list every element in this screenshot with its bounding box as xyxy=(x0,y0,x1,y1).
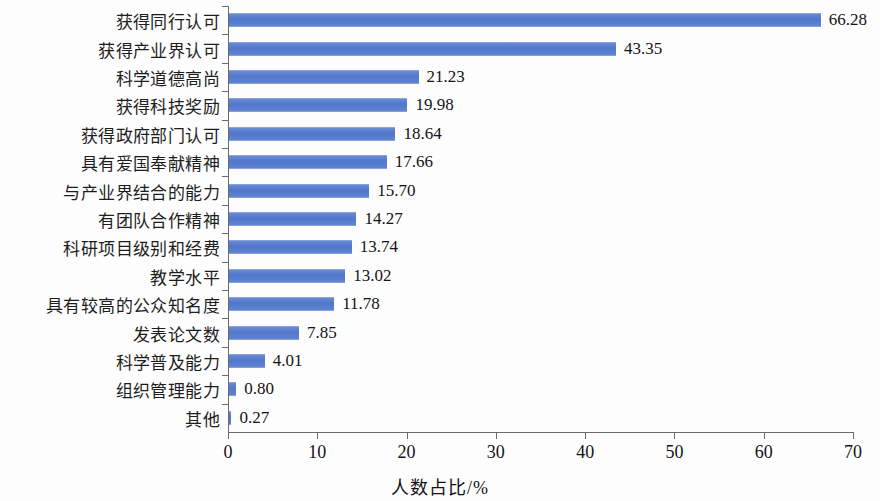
category-label: 科学普及能力 xyxy=(116,348,220,373)
x-axis-tick xyxy=(853,433,854,439)
bar-row: 具有爱国奉献精神17.66 xyxy=(228,148,853,176)
bar-value-label: 19.98 xyxy=(415,95,453,115)
y-axis-tick xyxy=(222,347,228,348)
category-label: 获得政府部门认可 xyxy=(81,121,220,146)
x-axis-tick xyxy=(496,433,497,439)
bar-value-label: 18.64 xyxy=(403,124,441,144)
y-axis-tick xyxy=(222,120,228,121)
bar xyxy=(229,42,616,55)
x-axis-tick-label: 50 xyxy=(665,442,683,463)
bar xyxy=(229,241,352,254)
category-label: 获得同行认可 xyxy=(116,8,220,33)
bar-row: 其他0.27 xyxy=(228,404,853,432)
x-axis-tick-label: 20 xyxy=(398,442,416,463)
category-label: 获得产业界认可 xyxy=(98,36,220,61)
category-label: 具有较高的公众知名度 xyxy=(46,292,220,317)
category-label: 与产业界结合的能力 xyxy=(63,178,220,203)
bar xyxy=(229,411,231,424)
bar xyxy=(229,99,407,112)
bar xyxy=(229,298,334,311)
bar-value-label: 0.80 xyxy=(244,379,274,399)
bar xyxy=(229,269,345,282)
category-label: 有团队合作精神 xyxy=(98,206,220,231)
bar-value-label: 43.35 xyxy=(624,39,662,59)
bar xyxy=(229,354,265,367)
bar-value-label: 21.23 xyxy=(427,67,465,87)
y-axis-tick xyxy=(222,233,228,234)
x-axis-tick xyxy=(228,433,229,439)
bar-value-label: 14.27 xyxy=(364,209,402,229)
y-axis-tick xyxy=(222,91,228,92)
y-axis-tick xyxy=(222,404,228,405)
bar-value-label: 15.70 xyxy=(377,181,415,201)
category-label: 发表论文数 xyxy=(133,320,220,345)
x-axis-tick-label: 30 xyxy=(487,442,505,463)
x-axis-tick-label: 40 xyxy=(576,442,594,463)
bar xyxy=(229,326,299,339)
bar-row: 获得产业界认可43.35 xyxy=(228,34,853,62)
y-axis-tick xyxy=(222,63,228,64)
category-label: 科研项目级别和经费 xyxy=(63,235,220,260)
x-axis-line xyxy=(228,432,854,433)
bar-row: 组织管理能力0.80 xyxy=(228,375,853,403)
bar-row: 获得同行认可66.28 xyxy=(228,6,853,34)
bar-row: 获得政府部门认可18.64 xyxy=(228,120,853,148)
bar-value-label: 13.02 xyxy=(353,266,391,286)
bar-value-label: 13.74 xyxy=(360,237,398,257)
y-axis-tick xyxy=(222,375,228,376)
bar-row: 具有较高的公众知名度11.78 xyxy=(228,290,853,318)
x-axis-tick-label: 60 xyxy=(755,442,773,463)
category-label: 教学水平 xyxy=(150,263,220,288)
category-label: 组织管理能力 xyxy=(116,377,220,402)
bar-chart: 获得同行认可66.28获得产业界认可43.35科学道德高尚21.23获得科技奖励… xyxy=(0,0,880,501)
bar-row: 获得科技奖励19.98 xyxy=(228,91,853,119)
y-axis-tick xyxy=(222,262,228,263)
bar xyxy=(229,184,369,197)
bar xyxy=(229,212,356,225)
bar xyxy=(229,14,821,27)
bar xyxy=(229,383,236,396)
bar xyxy=(229,127,395,140)
bar-row: 科学道德高尚21.23 xyxy=(228,63,853,91)
bar-value-label: 11.78 xyxy=(342,294,380,314)
bar-row: 科研项目级别和经费13.74 xyxy=(228,233,853,261)
y-axis-tick xyxy=(222,148,228,149)
x-axis-tick xyxy=(585,433,586,439)
category-label: 获得科技奖励 xyxy=(116,93,220,118)
x-axis-tick-label: 10 xyxy=(308,442,326,463)
x-axis-title: 人数占比/% xyxy=(0,473,880,499)
category-label: 具有爱国奉献精神 xyxy=(81,150,220,175)
bar-row: 与产业界结合的能力15.70 xyxy=(228,176,853,204)
bar-row: 发表论文数7.85 xyxy=(228,318,853,346)
bar-value-label: 66.28 xyxy=(829,10,867,30)
bar-value-label: 7.85 xyxy=(307,323,337,343)
bar xyxy=(229,156,387,169)
y-axis-tick xyxy=(222,6,228,7)
x-axis-tick xyxy=(674,433,675,439)
bar-value-label: 17.66 xyxy=(395,152,433,172)
bar-value-label: 0.27 xyxy=(239,408,269,428)
y-axis-tick xyxy=(222,205,228,206)
y-axis-tick xyxy=(222,290,228,291)
category-label: 其他 xyxy=(185,405,220,430)
x-axis-tick-label: 70 xyxy=(844,442,862,463)
bar-value-label: 4.01 xyxy=(273,351,303,371)
y-axis-tick xyxy=(222,176,228,177)
y-axis-tick xyxy=(222,34,228,35)
y-axis-tick xyxy=(222,318,228,319)
bar xyxy=(229,70,419,83)
x-axis-tick-label: 0 xyxy=(224,442,233,463)
x-axis-tick xyxy=(407,433,408,439)
bar-row: 教学水平13.02 xyxy=(228,262,853,290)
bar-row: 科学普及能力4.01 xyxy=(228,347,853,375)
x-axis-tick xyxy=(764,433,765,439)
bar-row: 有团队合作精神14.27 xyxy=(228,205,853,233)
x-axis-tick xyxy=(317,433,318,439)
category-label: 科学道德高尚 xyxy=(116,64,220,89)
